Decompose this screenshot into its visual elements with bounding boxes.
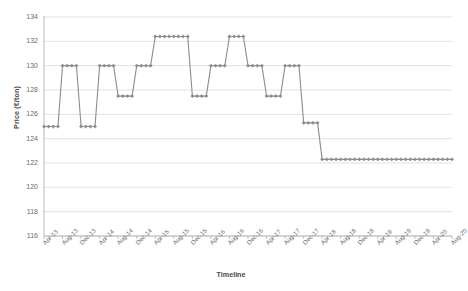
data-point-marker (399, 158, 402, 161)
data-point-marker (441, 158, 444, 161)
data-point-marker (84, 125, 87, 128)
data-point-marker (390, 158, 393, 161)
data-point-marker (89, 125, 92, 128)
data-point-marker (218, 64, 221, 67)
data-point-marker (228, 35, 231, 38)
y-tick-label: 120 (14, 183, 38, 191)
data-point-marker (158, 35, 161, 38)
data-point-marker (56, 125, 59, 128)
data-point-marker (70, 64, 73, 67)
data-point-marker (446, 158, 449, 161)
data-point-marker (362, 158, 365, 161)
data-point-marker (172, 35, 175, 38)
data-point-marker (279, 94, 282, 97)
data-point-marker (293, 64, 296, 67)
data-point-marker (409, 158, 412, 161)
data-point-marker (144, 64, 147, 67)
data-point-marker (186, 35, 189, 38)
data-point-marker (344, 158, 347, 161)
data-point-marker (140, 64, 143, 67)
data-point-marker (149, 64, 152, 67)
y-tick-label: 116 (14, 232, 38, 240)
data-point-marker (246, 64, 249, 67)
data-point-marker (209, 64, 212, 67)
y-tick-label: 134 (14, 13, 38, 21)
data-point-marker (103, 64, 106, 67)
data-point-marker (283, 64, 286, 67)
data-point-marker (358, 158, 361, 161)
data-point-marker (256, 64, 259, 67)
data-point-marker (42, 125, 45, 128)
data-point-marker (107, 64, 110, 67)
data-point-marker (177, 35, 180, 38)
data-point-marker (367, 158, 370, 161)
data-point-marker (52, 125, 55, 128)
data-point-marker (371, 158, 374, 161)
data-point-marker (325, 158, 328, 161)
data-point-marker (126, 94, 129, 97)
data-point-marker (116, 94, 119, 97)
y-tick-label: 128 (14, 86, 38, 94)
data-point-marker (167, 35, 170, 38)
data-point-marker (242, 35, 245, 38)
data-point-marker (311, 121, 314, 124)
data-point-marker (353, 158, 356, 161)
data-point-marker (436, 158, 439, 161)
data-point-marker (302, 121, 305, 124)
data-point-marker (237, 35, 240, 38)
data-point-marker (47, 125, 50, 128)
y-tick-label: 126 (14, 110, 38, 118)
data-point-marker (93, 125, 96, 128)
data-point-marker (432, 158, 435, 161)
data-point-marker (381, 158, 384, 161)
y-tick-label: 122 (14, 159, 38, 167)
data-point-marker (395, 158, 398, 161)
data-point-marker (316, 121, 319, 124)
data-point-marker (288, 64, 291, 67)
data-point-marker (348, 158, 351, 161)
data-point-marker (232, 35, 235, 38)
data-point-marker (223, 64, 226, 67)
data-point-marker (214, 64, 217, 67)
data-point-marker (297, 64, 300, 67)
data-point-marker (79, 125, 82, 128)
data-point-marker (130, 94, 133, 97)
data-point-marker (181, 35, 184, 38)
data-point-marker (112, 64, 115, 67)
data-point-marker (413, 158, 416, 161)
y-tick-label: 118 (14, 208, 38, 216)
data-point-marker (61, 64, 64, 67)
data-point-marker (251, 64, 254, 67)
data-point-marker (163, 35, 166, 38)
data-point-marker (135, 64, 138, 67)
data-point-marker (121, 94, 124, 97)
y-tick-label: 132 (14, 37, 38, 45)
data-point-marker (274, 94, 277, 97)
data-point-marker (269, 94, 272, 97)
data-point-marker (98, 64, 101, 67)
data-point-marker (376, 158, 379, 161)
data-point-marker (339, 158, 342, 161)
data-point-marker (154, 35, 157, 38)
data-point-marker (260, 64, 263, 67)
data-point-marker (191, 94, 194, 97)
price-line (44, 36, 452, 159)
data-point-marker (330, 158, 333, 161)
data-point-marker (450, 158, 453, 161)
data-point-marker (320, 158, 323, 161)
data-point-marker (205, 94, 208, 97)
data-point-marker (265, 94, 268, 97)
data-point-marker (385, 158, 388, 161)
data-point-marker (307, 121, 310, 124)
data-point-marker (334, 158, 337, 161)
y-tick-label: 130 (14, 62, 38, 70)
data-point-marker (418, 158, 421, 161)
data-point-marker (75, 64, 78, 67)
data-point-marker (195, 94, 198, 97)
data-point-marker (200, 94, 203, 97)
data-point-marker (427, 158, 430, 161)
data-point-marker (404, 158, 407, 161)
data-point-marker (65, 64, 68, 67)
